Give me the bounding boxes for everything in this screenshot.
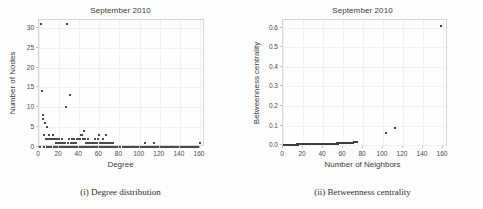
x-axis-tick (118, 146, 119, 148)
x-axis-tick (302, 146, 303, 148)
data-point (66, 23, 68, 25)
gridline-horizontal (283, 67, 446, 68)
y-axis-tick-label: 0.0 (269, 141, 278, 148)
x-axis-tick-label: 100 (377, 150, 388, 157)
data-point (102, 138, 104, 140)
panel-betweenness-centrality: September 2010 Betweenness centrality Nu… (242, 0, 483, 209)
data-point (43, 134, 45, 136)
y-axis-tick (280, 144, 282, 145)
gridline-horizontal (39, 107, 203, 108)
y-axis-tick (280, 105, 282, 106)
x-axis-tick-label: 60 (338, 150, 345, 157)
y-axis-tick-label: 0 (30, 143, 34, 150)
data-point (43, 146, 45, 148)
x-axis-tick (362, 146, 363, 148)
gridline-horizontal (283, 126, 446, 127)
data-point (83, 130, 85, 132)
gridline-horizontal (39, 48, 203, 49)
x-axis-tick (199, 146, 200, 148)
y-axis-tick (280, 27, 282, 28)
x-axis-label-left: Degree (0, 160, 241, 169)
data-point (52, 134, 54, 136)
y-axis-tick (36, 106, 38, 107)
data-point (96, 142, 98, 144)
caption-left: (i) Degree distribution (0, 187, 241, 197)
x-axis-tick (159, 146, 160, 148)
x-axis-tick-label: 40 (75, 150, 82, 157)
data-point (394, 127, 396, 129)
gridline-horizontal (39, 28, 203, 29)
x-axis-tick (342, 146, 343, 148)
data-point (40, 23, 42, 25)
x-axis-tick-label: 120 (397, 150, 408, 157)
x-axis-tick (382, 146, 383, 148)
gridline-horizontal (39, 87, 203, 88)
x-axis-tick-label: 60 (95, 150, 102, 157)
data-point (199, 142, 201, 144)
plot-area-left (38, 19, 204, 146)
chart-title-right: September 2010 (242, 6, 483, 15)
x-axis-tick-label: 140 (417, 150, 428, 157)
y-axis-tick (36, 86, 38, 87)
y-axis-tick (36, 67, 38, 68)
y-axis-tick (36, 27, 38, 28)
gridline-horizontal (283, 47, 446, 48)
data-point (46, 126, 48, 128)
x-axis-tick-label: 140 (173, 150, 184, 157)
x-axis-tick (58, 146, 59, 148)
y-axis-tick (280, 66, 282, 67)
gridline-horizontal (283, 106, 446, 107)
y-axis-label-right: Betweenness centrality (252, 41, 261, 123)
y-axis-tick-label: 0.1 (269, 121, 278, 128)
data-point (50, 146, 52, 148)
y-axis-tick-label: 0.6 (269, 23, 278, 30)
x-axis-tick (78, 146, 79, 148)
data-point (84, 138, 86, 140)
y-axis-tick-label: 0.4 (269, 62, 278, 69)
data-point (64, 142, 66, 144)
data-point (356, 141, 358, 143)
data-point (67, 142, 69, 144)
caption-right: (ii) Betweenness centrality (242, 187, 483, 197)
y-axis-tick (280, 85, 282, 86)
data-point (42, 118, 44, 120)
data-point (105, 134, 107, 136)
x-axis-tick-label: 0 (36, 150, 40, 157)
x-axis-tick-label: 100 (133, 150, 144, 157)
y-axis-tick-label: 10 (27, 103, 34, 110)
data-point (44, 122, 46, 124)
y-axis-tick (36, 47, 38, 48)
data-point (97, 138, 99, 140)
y-axis-tick (36, 126, 38, 127)
figure-sheet: September 2010 Number of Nodes Degree (i… (0, 0, 483, 209)
gridline-horizontal (283, 28, 446, 29)
data-point (58, 138, 60, 140)
x-axis-tick (402, 146, 403, 148)
data-point (41, 90, 43, 92)
x-axis-tick-label: 20 (54, 150, 61, 157)
x-axis-tick-label: 160 (437, 150, 448, 157)
data-point (69, 94, 71, 96)
x-axis-tick (139, 146, 140, 148)
x-axis-label-right: Number of Neighbors (242, 160, 483, 169)
plot-area-right (282, 19, 447, 146)
data-point (65, 106, 67, 108)
data-point (48, 134, 50, 136)
x-axis-tick-label: 20 (298, 150, 305, 157)
gridline-horizontal (39, 68, 203, 69)
y-axis-tick-label: 25 (27, 43, 34, 50)
y-axis-tick (36, 146, 38, 147)
y-axis-tick-label: 0.2 (269, 101, 278, 108)
data-point (68, 138, 70, 140)
x-axis-tick-label: 80 (358, 150, 365, 157)
gridline-horizontal (283, 86, 446, 87)
x-axis-tick (38, 146, 39, 148)
x-axis-tick (282, 146, 283, 148)
data-point (79, 138, 81, 140)
x-axis-tick-label: 160 (194, 150, 205, 157)
y-axis-tick-label: 20 (27, 63, 34, 70)
y-axis-tick (280, 46, 282, 47)
x-axis-tick (98, 146, 99, 148)
data-point (385, 132, 387, 134)
panel-degree-distribution: September 2010 Number of Nodes Degree (i… (0, 0, 241, 209)
